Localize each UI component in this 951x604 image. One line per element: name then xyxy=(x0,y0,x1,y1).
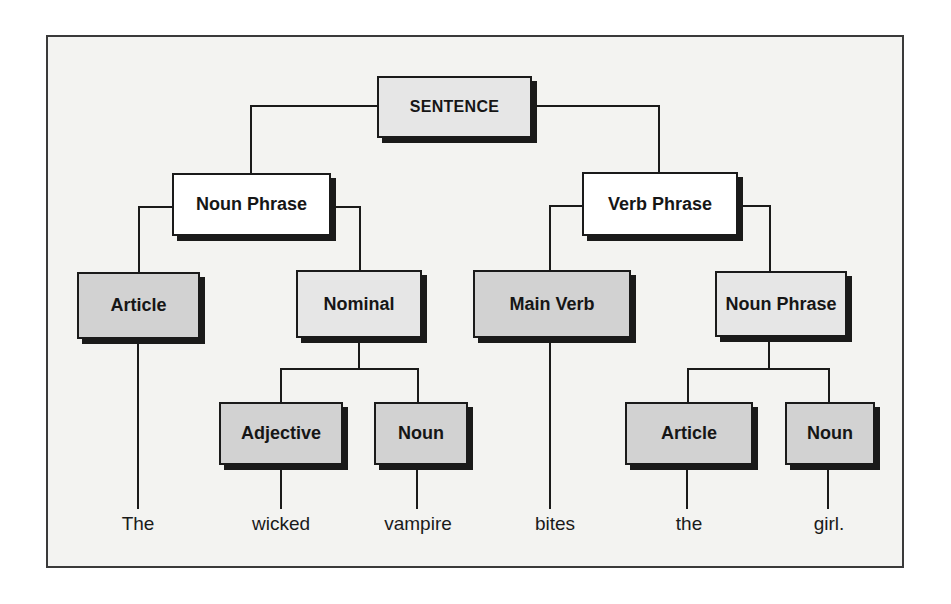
connector-line xyxy=(417,368,419,403)
node-label: SENTENCE xyxy=(410,98,500,116)
node-label: Noun Phrase xyxy=(725,294,836,315)
connector-line xyxy=(250,105,378,107)
connector-line xyxy=(280,368,419,370)
node-label: Noun xyxy=(807,423,853,444)
connector-line xyxy=(549,205,551,271)
node-verb-phrase: Verb Phrase xyxy=(582,172,738,236)
connector-line xyxy=(138,206,173,208)
connector-line xyxy=(250,105,252,174)
node-label: Main Verb xyxy=(509,294,594,315)
connector-line xyxy=(828,368,830,403)
node-label: Adjective xyxy=(241,423,321,444)
connector-line xyxy=(416,465,418,509)
node-noun-phrase-left: Noun Phrase xyxy=(172,173,331,236)
connector-line xyxy=(549,205,583,207)
connector-line xyxy=(738,205,770,207)
connector-line xyxy=(358,338,360,370)
connector-line xyxy=(687,368,830,370)
node-nominal: Nominal xyxy=(296,270,422,338)
node-label: Noun Phrase xyxy=(196,194,307,215)
connector-line xyxy=(137,339,139,509)
connector-line xyxy=(138,206,140,273)
connector-line xyxy=(331,206,361,208)
node-adjective: Adjective xyxy=(219,402,343,465)
node-sentence: SENTENCE xyxy=(377,76,532,138)
connector-line xyxy=(532,105,660,107)
word-bites: bites xyxy=(535,513,575,535)
node-label: Verb Phrase xyxy=(608,194,712,215)
node-label: Noun xyxy=(398,423,444,444)
connector-line xyxy=(549,338,551,509)
word-wicked: wicked xyxy=(252,513,310,535)
connector-line xyxy=(768,337,770,370)
word-the: The xyxy=(122,513,155,535)
node-article-left: Article xyxy=(77,272,200,339)
node-article-right: Article xyxy=(625,402,753,465)
node-main-verb: Main Verb xyxy=(473,270,631,338)
node-noun-left: Noun xyxy=(374,402,468,465)
connector-line xyxy=(769,205,771,272)
connector-line xyxy=(359,206,361,271)
connector-line xyxy=(280,368,282,403)
node-label: Nominal xyxy=(323,294,394,315)
connector-line xyxy=(280,465,282,509)
node-noun-right: Noun xyxy=(785,402,875,465)
word-the-lower: the xyxy=(676,513,702,535)
connector-line xyxy=(827,465,829,509)
connector-line xyxy=(658,105,660,173)
node-noun-phrase-right: Noun Phrase xyxy=(715,271,847,337)
word-vampire: vampire xyxy=(384,513,452,535)
word-girl: girl. xyxy=(814,513,845,535)
node-label: Article xyxy=(661,423,717,444)
connector-line xyxy=(687,368,689,403)
connector-line xyxy=(686,465,688,509)
node-label: Article xyxy=(110,295,166,316)
